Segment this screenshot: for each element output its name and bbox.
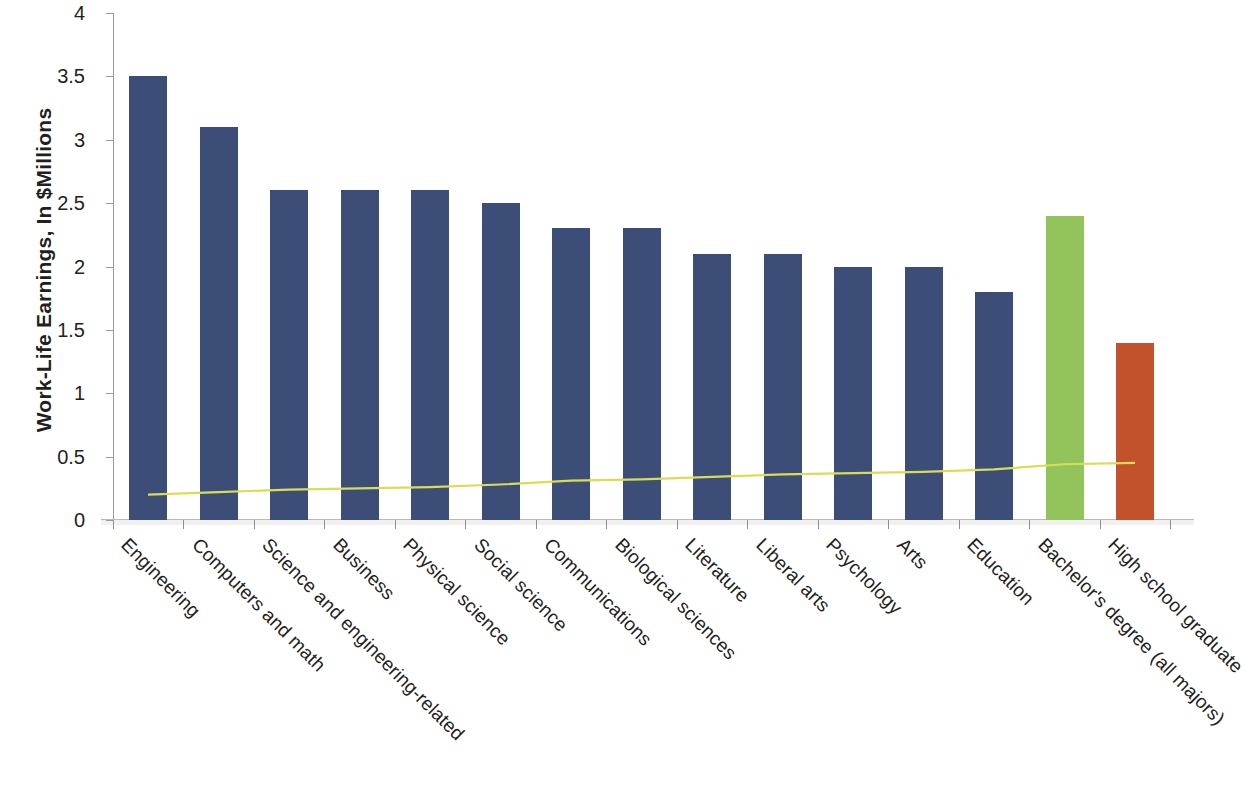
- plot-area: 00.511.522.533.54: [113, 13, 1188, 520]
- x-axis-tick: [818, 520, 819, 529]
- x-axis-category-label: High school graduate: [1103, 534, 1245, 678]
- x-axis-category-label: Engineering: [116, 534, 204, 622]
- x-axis-tick: [113, 520, 114, 529]
- y-axis-tick-label: 3.5: [15, 66, 85, 86]
- x-axis-category-label: Computers and math: [187, 534, 329, 676]
- x-axis-category-label: Business: [328, 534, 399, 605]
- y-axis-tick: [106, 13, 113, 14]
- x-axis-tick: [1100, 520, 1101, 529]
- bar: [341, 190, 379, 520]
- x-axis-category-label: Social science: [469, 534, 571, 636]
- y-axis-tick: [106, 203, 113, 204]
- bar: [905, 267, 943, 521]
- y-axis-tick: [106, 457, 113, 458]
- bar: [1046, 216, 1084, 520]
- bar: [1116, 343, 1154, 520]
- x-axis-category-label: Psychology: [821, 534, 906, 619]
- x-axis-tick: [536, 520, 537, 529]
- bar: [129, 76, 167, 520]
- bar: [552, 228, 590, 520]
- x-axis-category-label: Physical science: [398, 534, 514, 650]
- bar: [834, 267, 872, 521]
- y-axis-tick: [106, 76, 113, 77]
- y-axis-tick-label: 4: [15, 3, 85, 23]
- x-axis-category-label: Liberal arts: [751, 534, 834, 617]
- bar: [764, 254, 802, 520]
- x-axis-tick: [606, 520, 607, 529]
- x-axis-tick: [888, 520, 889, 529]
- y-axis-tick: [106, 267, 113, 268]
- y-axis-tick: [106, 330, 113, 331]
- y-axis-tick: [106, 140, 113, 141]
- x-axis-category-label: Bachelor's degree (all majors): [1033, 534, 1229, 730]
- bar: [975, 292, 1013, 520]
- x-axis-tick: [677, 520, 678, 529]
- bar: [482, 203, 520, 520]
- x-axis-tick: [254, 520, 255, 529]
- bar: [270, 190, 308, 520]
- x-axis-category-label: Arts: [892, 534, 932, 574]
- bar: [623, 228, 661, 520]
- y-axis-tick-label: 0: [15, 510, 85, 530]
- x-axis-category-label: Literature: [680, 534, 753, 607]
- x-axis-tick: [1029, 520, 1030, 529]
- x-axis-tick: [959, 520, 960, 529]
- x-axis-tick: [395, 520, 396, 529]
- x-axis-tick: [183, 520, 184, 529]
- y-axis-line: [113, 13, 114, 520]
- y-axis-tick-label: 1.5: [15, 320, 85, 340]
- x-axis-tick: [465, 520, 466, 529]
- bar: [411, 190, 449, 520]
- x-axis-tick: [324, 520, 325, 529]
- y-axis-tick-label: 0.5: [15, 447, 85, 467]
- y-axis-tick-label: 1: [15, 383, 85, 403]
- x-axis-category-label: Education: [962, 534, 1038, 610]
- y-axis-tick-label: 2.5: [15, 193, 85, 213]
- bar: [693, 254, 731, 520]
- x-axis-category-label: Biological sciences: [610, 534, 740, 664]
- x-axis-category-label: Science and engineering-related: [257, 534, 468, 745]
- y-axis-tick-label: 2: [15, 257, 85, 277]
- x-axis-tick: [1170, 520, 1171, 529]
- y-axis-tick: [106, 393, 113, 394]
- y-axis-tick-label: 3: [15, 130, 85, 150]
- x-axis-tick: [747, 520, 748, 529]
- bar: [200, 127, 238, 520]
- x-axis-category-label: Communications: [539, 534, 656, 651]
